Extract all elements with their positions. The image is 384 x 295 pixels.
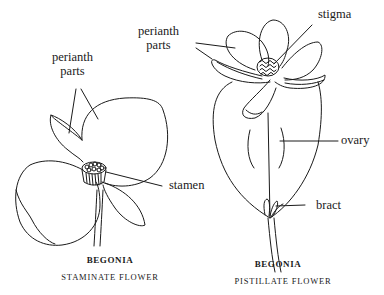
pistillate-stigma-label: stigma [318,7,351,21]
right-perianth-leader-2 [196,48,212,59]
staminate-title: BEGONIA [65,255,155,265]
perianth-word: perianth [52,50,93,64]
stamen-leader [106,172,162,186]
perianth-leader-2 [81,89,98,119]
pistillate-bract [264,199,283,217]
flower-drawings [0,0,384,295]
perianth-word: perianth [138,24,179,38]
parts-word: parts [52,64,93,78]
pistillate-ovary-label: ovary [341,133,369,147]
perianth-leader-1 [69,89,76,133]
staminate-flower-illustration [16,89,168,246]
pistillate-perianth-label: perianth parts [138,24,179,52]
staminate-stamen-cluster [82,162,106,185]
right-perianth-leader-1 [196,43,235,48]
staminate-stamen-label: stamen [169,178,204,192]
pistillate-title: BEGONIA [238,259,318,269]
pistillate-stigma-cluster [257,58,279,76]
staminate-perianth-label: perianth parts [52,50,93,78]
pistillate-flower-illustration [196,20,338,272]
staminate-subtitle: STAMINATE FLOWER [40,272,180,282]
stigma-leader [274,25,312,64]
begonia-diagram: perianth parts stamen BEGONIA STAMINATE … [0,0,384,295]
pistillate-bract-label: bract [316,198,341,212]
parts-word: parts [138,38,179,52]
pistillate-subtitle: PISTILLATE FLOWER [213,276,353,286]
